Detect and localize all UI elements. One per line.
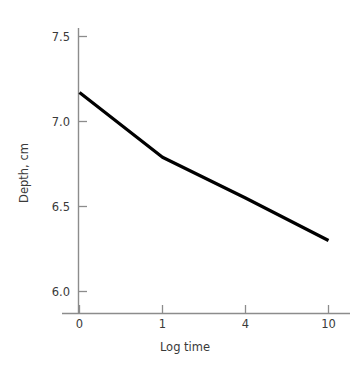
y-tick-label-1: 7.0: [52, 115, 70, 129]
y-tick-label-0: 7.5: [52, 30, 70, 44]
x-tick-label-3: 10: [321, 317, 336, 331]
y-tick-label-3: 6.0: [52, 285, 70, 299]
y-axis-title: Depth, cm: [17, 143, 31, 203]
line-chart-canvas: 7.5 7.0 6.5 6.0 0 1 4 10 Log time Depth,…: [0, 0, 363, 366]
y-tick-label-2: 6.5: [52, 200, 70, 214]
x-tick-label-0: 0: [76, 317, 83, 331]
chart-figure: 7.5 7.0 6.5 6.0 0 1 4 10 Log time Depth,…: [0, 0, 363, 366]
x-tick-label-2: 4: [242, 317, 249, 331]
data-series-line: [80, 93, 329, 241]
x-tick-label-1: 1: [159, 317, 166, 331]
x-axis-title: Log time: [160, 340, 210, 354]
